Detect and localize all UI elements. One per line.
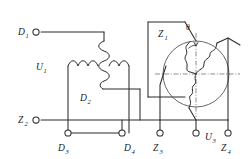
- schematic-diagram: D 1 Z 2 D 3 D 4 Z 3 Z 4 U: [0, 0, 249, 159]
- terminal-u3[interactable]: [193, 130, 199, 136]
- label-z1: Z 1: [158, 29, 168, 41]
- label-d3-sub: 3: [65, 148, 70, 155]
- star-arm-2: [196, 43, 217, 74]
- terminal-d4[interactable]: [119, 130, 125, 136]
- coil-d2-vertical: [99, 41, 110, 89]
- label-theta: θ: [186, 23, 190, 32]
- label-d4-sub: 4: [132, 148, 136, 155]
- label-z1-base: Z: [158, 29, 164, 39]
- label-d2-sub: 2: [88, 98, 92, 105]
- terminal-z3[interactable]: [157, 130, 163, 136]
- label-z1-sub: 1: [165, 34, 168, 41]
- label-u3: U 3: [205, 132, 217, 144]
- coil-u1-right-half: [109, 61, 129, 66]
- label-z2-base: Z: [18, 115, 24, 125]
- label-d4: D 4: [123, 143, 136, 155]
- label-d1-base: D: [17, 27, 25, 37]
- label-u3-sub: 3: [212, 137, 217, 144]
- label-z4-base: Z: [221, 143, 227, 153]
- label-z4: Z 4: [221, 143, 232, 155]
- terminal-z2[interactable]: [33, 117, 39, 123]
- label-d2: D 2: [79, 93, 92, 105]
- label-d3-base: D: [57, 143, 65, 153]
- label-z3-base: Z: [153, 143, 159, 153]
- arc-theta: [188, 45, 196, 48]
- label-d1: D 1: [17, 27, 29, 39]
- label-d3: D 3: [57, 143, 70, 155]
- coil-u1-left-half: [68, 61, 98, 66]
- label-d2-base: D: [79, 93, 87, 103]
- label-z3: Z 3: [153, 143, 164, 155]
- label-z4-sub: 4: [228, 148, 232, 155]
- terminal-d3[interactable]: [65, 130, 71, 136]
- label-z3-sub: 3: [159, 148, 164, 155]
- label-z2-sub: 2: [25, 120, 29, 127]
- terminal-z4[interactable]: [225, 130, 231, 136]
- label-u1: U 1: [36, 62, 47, 74]
- label-u1-sub: 1: [44, 67, 47, 74]
- terminal-d1[interactable]: [33, 29, 39, 35]
- star-arm-3: [189, 74, 196, 108]
- schematic-canvas: D 1 Z 2 D 3 D 4 Z 3 Z 4 U: [0, 0, 249, 159]
- wire-star-arm3-lead: [189, 108, 196, 120]
- label-d4-base: D: [123, 143, 131, 153]
- label-d1-sub: 1: [26, 32, 29, 39]
- label-z2: Z 2: [18, 115, 29, 127]
